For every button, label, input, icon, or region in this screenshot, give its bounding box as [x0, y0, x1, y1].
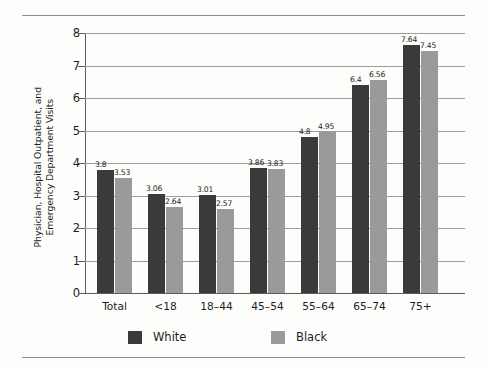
value-label-black-4: 4.95: [318, 122, 334, 131]
y-tick-mark-2: [78, 228, 85, 229]
value-label-white-1: 3.06: [146, 184, 162, 193]
y-tick-mark-3: [78, 196, 85, 197]
value-label-black-2: 2.57: [216, 199, 232, 208]
value-label-white-0: 3.8: [95, 160, 106, 169]
y-tick-mark-8: [78, 33, 85, 34]
y-tick-label-7: 7: [60, 59, 80, 73]
value-label-black-0: 3.53: [114, 168, 130, 177]
y-tick-mark-6: [78, 98, 85, 99]
value-label-white-6: 7.64: [401, 35, 417, 44]
bar-white-18-44[interactable]: [199, 195, 216, 293]
x-axis-line: [85, 293, 465, 294]
y-tick-label-8: 8: [60, 26, 80, 40]
y-tick-label-1: 1: [60, 254, 80, 268]
y-tick-mark-4: [78, 163, 85, 164]
bar-white-55-64[interactable]: [301, 137, 318, 293]
bar-white-75plus[interactable]: [403, 45, 420, 293]
bar-black-45-54[interactable]: [268, 169, 285, 293]
bar-black-65-74[interactable]: [370, 80, 387, 293]
value-label-white-3: 3.86: [248, 158, 264, 167]
legend-label-white: White: [153, 330, 186, 344]
y-tick-mark-1: [78, 261, 85, 262]
bar-black-75plus[interactable]: [421, 51, 438, 293]
plot-area: 3.8 3.53 3.06 2.64 3.01 2.57 3.86 3.83 4…: [85, 33, 465, 293]
x-tick-label-75plus: 75+: [391, 300, 451, 312]
y-tick-label-6: 6: [60, 91, 80, 105]
y-tick-label-0: 0: [60, 286, 80, 300]
value-label-black-3: 3.83: [267, 159, 283, 168]
value-label-black-6: 7.45: [420, 41, 436, 50]
legend-label-black: Black: [296, 330, 327, 344]
bottom-divider-rule: [22, 357, 465, 358]
y-tick-label-5: 5: [60, 124, 80, 138]
y-tick-mark-0: [78, 293, 85, 294]
figure-container: Physician, Hospital Outpatient, and Emer…: [0, 0, 488, 368]
bar-white-45-54[interactable]: [250, 168, 267, 293]
y-tick-mark-5: [78, 131, 85, 132]
bar-black-55-64[interactable]: [319, 132, 336, 293]
bar-white-65-74[interactable]: [352, 85, 369, 293]
value-label-white-5: 6.4: [350, 75, 361, 84]
bar-white-under18[interactable]: [148, 194, 165, 293]
value-label-white-2: 3.01: [197, 185, 213, 194]
bar-black-18-44[interactable]: [217, 209, 234, 293]
legend-swatch-white-icon: [128, 331, 142, 344]
y-tick-mark-7: [78, 66, 85, 67]
chart-legend: White Black: [0, 330, 488, 350]
y-axis-title: Physician, Hospital Outpatient, and Emer…: [32, 37, 56, 297]
value-label-black-5: 6.56: [369, 70, 385, 79]
bar-black-under18[interactable]: [166, 207, 183, 293]
y-tick-label-3: 3: [60, 189, 80, 203]
y-tick-label-2: 2: [60, 221, 80, 235]
value-label-white-4: 4.8: [299, 127, 310, 136]
value-label-black-1: 2.64: [165, 197, 181, 206]
legend-swatch-black-icon: [271, 331, 285, 344]
top-divider-rule: [22, 15, 465, 16]
bar-white-total[interactable]: [97, 170, 114, 294]
bar-black-total[interactable]: [115, 178, 132, 293]
y-tick-label-4: 4: [60, 156, 80, 170]
